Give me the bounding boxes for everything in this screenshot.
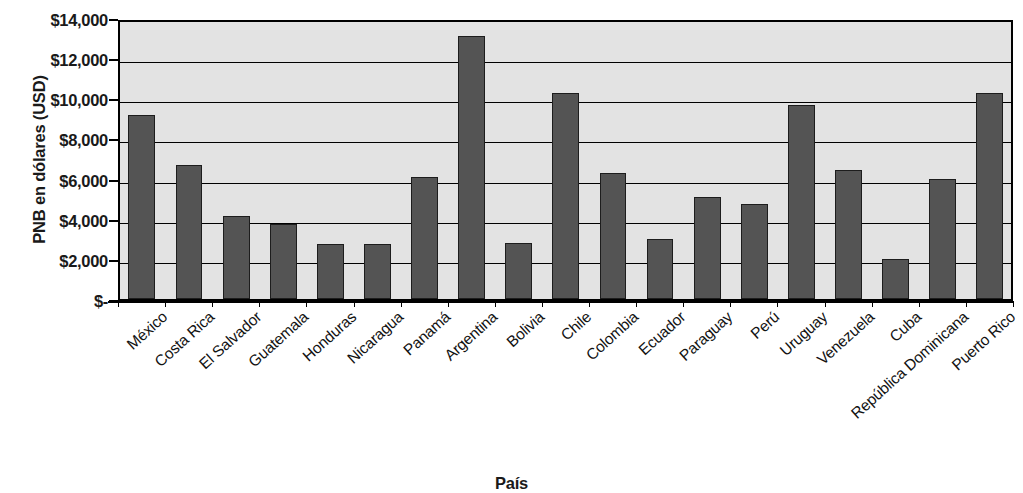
bar-slot xyxy=(167,22,214,299)
y-axis-tick-mark xyxy=(109,260,118,262)
y-axis-tick-label: $4,000 xyxy=(59,211,108,230)
bar[interactable] xyxy=(411,177,438,299)
bar[interactable] xyxy=(694,197,721,299)
bar[interactable] xyxy=(929,179,956,299)
x-axis-tick-label: El Salvador xyxy=(196,308,265,373)
y-axis-tick-label: $2,000 xyxy=(59,251,108,270)
x-axis-tick-mark xyxy=(306,301,307,307)
bar-slot xyxy=(450,22,497,299)
y-axis-tick-mark xyxy=(109,99,118,101)
y-axis-tick-label: $6,000 xyxy=(59,171,108,190)
bar[interactable] xyxy=(600,173,627,299)
bar[interactable] xyxy=(128,115,155,299)
bar-slot xyxy=(685,22,732,299)
bar-slot xyxy=(827,22,874,299)
y-axis-tick-label: $10,000 xyxy=(50,91,108,110)
bar[interactable] xyxy=(176,165,203,299)
bar-slot xyxy=(403,22,450,299)
x-axis-tick-mark xyxy=(118,301,119,307)
bar-slot xyxy=(308,22,355,299)
bar-slot xyxy=(732,22,779,299)
x-axis-tick-mark xyxy=(683,301,684,307)
y-axis-tick-mark xyxy=(109,19,118,21)
x-axis-tick-mark xyxy=(1013,301,1014,307)
bars-layer xyxy=(120,22,1011,299)
bar-slot xyxy=(591,22,638,299)
x-axis-tick-label: Panamá xyxy=(400,308,454,359)
x-axis-tick-label: Costa Rica xyxy=(151,308,218,371)
x-axis-tick-mark xyxy=(165,301,166,307)
x-axis-tick-label: Cuba xyxy=(886,308,925,346)
bar-slot xyxy=(261,22,308,299)
bar[interactable] xyxy=(317,244,344,299)
x-axis-tick-label: República Dominicana xyxy=(848,308,972,422)
x-axis-tick-mark xyxy=(872,301,873,307)
x-axis-tick-label: Honduras xyxy=(299,308,360,365)
y-axis-ticks: $14,000$12,000$10,000$8,000$6,000$4,000$… xyxy=(0,0,118,310)
x-axis-tick-mark xyxy=(259,301,260,307)
bar-slot xyxy=(638,22,685,299)
bar[interactable] xyxy=(647,239,674,299)
x-axis-tick-mark xyxy=(777,301,778,307)
bar-chart: PNB en dólares (USD) $14,000$12,000$10,0… xyxy=(0,0,1023,493)
x-axis-tick-label: Ecuador xyxy=(635,308,689,359)
bar[interactable] xyxy=(364,244,391,299)
bar[interactable] xyxy=(458,36,485,299)
x-axis-tick-mark xyxy=(495,301,496,307)
bar-slot xyxy=(874,22,921,299)
x-axis-line xyxy=(108,301,1013,303)
x-axis-tick-mark xyxy=(401,301,402,307)
bar[interactable] xyxy=(552,93,579,299)
y-axis-tick-label: $14,000 xyxy=(50,11,108,30)
bar-slot xyxy=(356,22,403,299)
bar-slot xyxy=(214,22,261,299)
x-axis-tick-mark xyxy=(448,301,449,307)
bar[interactable] xyxy=(882,259,909,299)
bar-slot xyxy=(497,22,544,299)
x-axis-tick-mark xyxy=(966,301,967,307)
plot-area xyxy=(118,20,1013,301)
x-axis-tick-label: Bolivia xyxy=(503,308,548,351)
x-axis-tick-label: Venezuela xyxy=(813,308,878,369)
x-axis-tick-mark xyxy=(212,301,213,307)
x-axis-tick-mark xyxy=(730,301,731,307)
x-axis-tick-mark xyxy=(354,301,355,307)
x-axis-tick-mark xyxy=(542,301,543,307)
bar[interactable] xyxy=(976,93,1003,299)
x-axis-tick-label: Paraguay xyxy=(676,308,736,365)
bar[interactable] xyxy=(270,224,297,299)
x-axis-title: País xyxy=(0,474,1023,493)
bar[interactable] xyxy=(788,105,815,299)
x-axis-tick-label: México xyxy=(123,308,171,353)
x-axis-tick-label: Uruguay xyxy=(776,308,831,360)
x-axis-tick-label: Perú xyxy=(748,308,784,343)
x-axis-tick-label: Chile xyxy=(558,308,596,344)
bar-slot xyxy=(921,22,968,299)
y-axis-tick-mark xyxy=(109,59,118,61)
x-axis-tick-mark xyxy=(589,301,590,307)
x-axis-tick-mark xyxy=(636,301,637,307)
y-axis-tick-label: $- xyxy=(94,292,108,311)
y-axis-tick-label: $12,000 xyxy=(50,51,108,70)
bar-slot xyxy=(544,22,591,299)
x-axis-tick-label: Colombia xyxy=(583,308,643,364)
y-axis-tick-label: $8,000 xyxy=(59,131,108,150)
bar-slot xyxy=(779,22,826,299)
bar[interactable] xyxy=(835,170,862,299)
x-axis-tick-mark xyxy=(919,301,920,307)
bar-slot xyxy=(120,22,167,299)
bar-slot xyxy=(968,22,1015,299)
bar[interactable] xyxy=(223,216,250,299)
y-axis-tick-mark xyxy=(109,180,118,182)
bar[interactable] xyxy=(505,243,532,299)
y-axis-tick-mark xyxy=(109,220,118,222)
bar[interactable] xyxy=(741,204,768,299)
x-axis-tick-label: Puerto Rico xyxy=(948,308,1019,374)
x-axis-tick-label: Nicaragua xyxy=(343,308,406,367)
x-axis-tick-label: Argentina xyxy=(441,308,501,365)
x-axis-tick-mark xyxy=(825,301,826,307)
y-axis-tick-mark xyxy=(109,139,118,141)
x-axis-tick-label: Guatemala xyxy=(245,308,312,371)
